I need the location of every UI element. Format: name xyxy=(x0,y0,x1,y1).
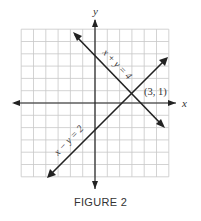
x-axis-label: x xyxy=(181,97,187,109)
x-axis-arrow-left-icon xyxy=(12,100,20,106)
line-x-plus-y-equals-4 xyxy=(73,32,165,128)
y-axis xyxy=(92,19,98,189)
y-axis-arrow-down-icon xyxy=(92,181,98,189)
figure-caption: FIGURE 2 xyxy=(0,196,201,208)
line2-label: x − y = 2 xyxy=(51,123,86,158)
arrow-head-icon xyxy=(73,32,82,41)
intersection-label: (3, 1) xyxy=(144,86,167,98)
line1-label: x + y = 4 xyxy=(100,46,135,81)
coordinate-plane: x y x + y = 4 x − y = 2 (3, 1) xyxy=(0,0,201,221)
y-axis-arrow-up-icon xyxy=(92,19,98,27)
y-axis-label: y xyxy=(92,5,98,17)
x-axis xyxy=(12,100,176,106)
x-axis-arrow-right-icon xyxy=(168,100,176,106)
